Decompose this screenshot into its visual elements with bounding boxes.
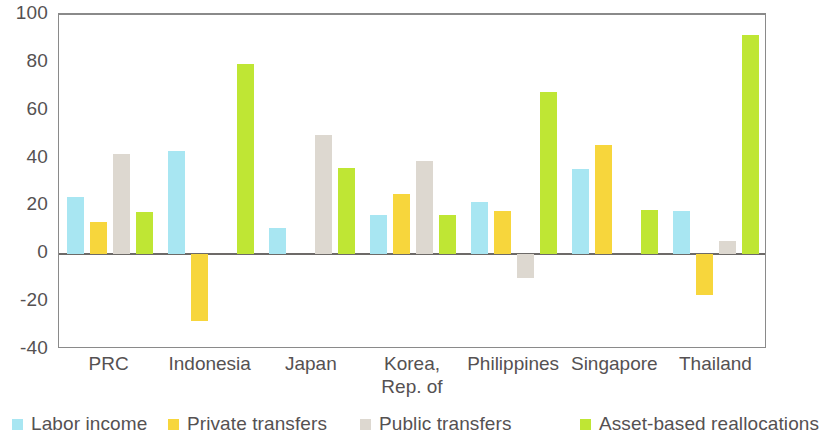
bar bbox=[742, 35, 759, 254]
x-tick-label: Thailand bbox=[679, 352, 752, 375]
bar bbox=[540, 92, 557, 255]
bar-group bbox=[168, 15, 254, 347]
bar bbox=[136, 212, 153, 254]
bar bbox=[338, 168, 355, 254]
y-tick-label: 0 bbox=[37, 241, 48, 263]
y-tick-label: -20 bbox=[20, 289, 48, 311]
x-tick-label: Singapore bbox=[571, 352, 658, 375]
bar-group bbox=[572, 15, 658, 347]
x-axis: PRCIndonesiaJapanKorea,Rep. ofPhilippine… bbox=[58, 352, 766, 408]
bar-group bbox=[471, 15, 557, 347]
bar-group bbox=[673, 15, 759, 347]
bar-group bbox=[67, 15, 153, 347]
bar bbox=[494, 211, 511, 254]
y-tick-label: 80 bbox=[26, 50, 48, 72]
y-tick-label: 60 bbox=[26, 98, 48, 120]
bar bbox=[393, 194, 410, 254]
plot-area bbox=[58, 13, 766, 348]
legend-label: Asset-based reallocations bbox=[599, 413, 819, 435]
legend-label: Labor income bbox=[31, 413, 147, 435]
x-tick-label-line1: Philippines bbox=[467, 352, 559, 375]
bar bbox=[696, 254, 713, 295]
legend-item[interactable]: Public transfers bbox=[360, 413, 512, 435]
y-tick-label: -40 bbox=[20, 337, 48, 359]
bar bbox=[719, 241, 736, 254]
bar bbox=[113, 154, 130, 255]
x-tick-label-line1: PRC bbox=[89, 352, 129, 375]
bar bbox=[673, 211, 690, 254]
bar bbox=[517, 254, 534, 278]
y-tick-label: 40 bbox=[26, 146, 48, 168]
x-tick-label-line1: Japan bbox=[285, 352, 337, 375]
legend-item[interactable]: Labor income bbox=[12, 413, 147, 435]
bar bbox=[572, 169, 589, 254]
bar bbox=[191, 254, 208, 321]
x-tick-label-line1: Indonesia bbox=[169, 352, 251, 375]
x-tick-label-line1: Thailand bbox=[679, 352, 752, 375]
bar-group bbox=[370, 15, 456, 347]
x-tick-label-line1: Singapore bbox=[571, 352, 658, 375]
y-axis: -40-20020406080100 bbox=[0, 0, 54, 360]
legend-label: Private transfers bbox=[187, 413, 327, 435]
y-tick-label: 100 bbox=[16, 2, 48, 24]
y-tick-label: 20 bbox=[26, 193, 48, 215]
chart-legend: Labor incomePrivate transfersPublic tran… bbox=[0, 413, 779, 443]
bar bbox=[90, 222, 107, 254]
x-tick-label-line1: Korea, bbox=[381, 352, 442, 375]
x-tick-label: Japan bbox=[285, 352, 337, 375]
legend-swatch-icon bbox=[360, 419, 371, 430]
x-tick-label-line2: Rep. of bbox=[381, 375, 442, 398]
bar bbox=[67, 197, 84, 254]
legend-item[interactable]: Asset-based reallocations bbox=[580, 413, 819, 435]
x-tick-label: Indonesia bbox=[169, 352, 251, 375]
bar bbox=[168, 151, 185, 254]
legend-swatch-icon bbox=[168, 419, 179, 430]
bar bbox=[595, 145, 612, 254]
bar bbox=[315, 135, 332, 255]
legend-swatch-icon bbox=[580, 419, 591, 430]
bar-group bbox=[269, 15, 355, 347]
x-tick-label: Korea,Rep. of bbox=[381, 352, 442, 398]
legend-swatch-icon bbox=[12, 419, 23, 430]
bar bbox=[416, 161, 433, 254]
bar bbox=[370, 215, 387, 254]
bar bbox=[471, 202, 488, 255]
legend-item[interactable]: Private transfers bbox=[168, 413, 327, 435]
bar bbox=[641, 210, 658, 254]
x-tick-label: Philippines bbox=[467, 352, 559, 375]
bar bbox=[237, 64, 254, 254]
bar bbox=[269, 228, 286, 254]
bar bbox=[439, 215, 456, 254]
x-tick-label: PRC bbox=[89, 352, 129, 375]
legend-label: Public transfers bbox=[379, 413, 512, 435]
